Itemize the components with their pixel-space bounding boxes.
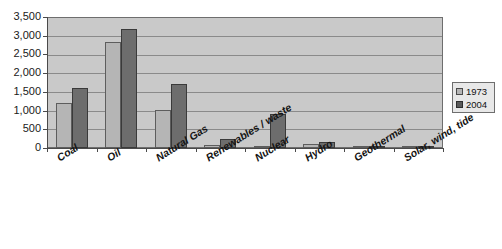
y-axis-tick-label: 3,500 [1, 11, 41, 22]
y-axis-tick-mark [43, 36, 47, 37]
x-axis-tick-mark [146, 148, 147, 152]
y-axis-tick-mark [43, 54, 47, 55]
y-axis-labels: 05001,0001,5002,0002,5003,0003,500 [0, 0, 41, 249]
x-axis-tick-mark [394, 148, 395, 152]
x-axis-tick-mark [295, 148, 296, 152]
legend-swatch-1973-icon [456, 88, 463, 95]
y-axis-tick-label: 2,000 [1, 67, 41, 78]
y-axis-tick-label: 3,000 [1, 30, 41, 41]
bar-chart: 05001,0001,5002,0002,5003,0003,500 CoalO… [0, 0, 502, 249]
y-axis-tick-mark [43, 111, 47, 112]
x-axis-label-oil: Oil [105, 147, 123, 164]
y-axis-tick-label: 1,000 [1, 105, 41, 116]
y-axis-tick-label: 500 [1, 123, 41, 134]
y-axis-tick-mark [43, 92, 47, 93]
x-axis-tick-mark [47, 148, 48, 152]
y-axis-tick-mark [43, 129, 47, 130]
legend-label-2004: 2004 [466, 100, 487, 110]
y-axis-tick-mark [43, 148, 47, 149]
legend: 1973 2004 [452, 82, 495, 113]
legend-item-1973: 1973 [456, 85, 491, 98]
legend-swatch-2004-icon [456, 101, 463, 108]
bar-oil-1973 [105, 42, 121, 148]
y-axis-tick-mark [43, 17, 47, 18]
legend-label-1973: 1973 [466, 87, 487, 97]
y-axis-line [47, 17, 48, 149]
y-axis-tick-mark [43, 73, 47, 74]
x-axis-tick-mark [196, 148, 197, 152]
bar-coal-2004 [72, 88, 88, 148]
y-axis-tick-label: 2,500 [1, 48, 41, 59]
bar-oil-2004 [121, 29, 137, 148]
x-axis-tick-mark [344, 148, 345, 152]
y-axis-tick-label: 1,500 [1, 86, 41, 97]
legend-item-2004: 2004 [456, 98, 491, 111]
x-axis-tick-mark [245, 148, 246, 152]
bar-coal-1973 [56, 103, 72, 148]
y-axis-tick-label: 0 [1, 142, 41, 153]
x-axis-tick-mark [97, 148, 98, 152]
x-axis-tick-mark [443, 148, 444, 152]
